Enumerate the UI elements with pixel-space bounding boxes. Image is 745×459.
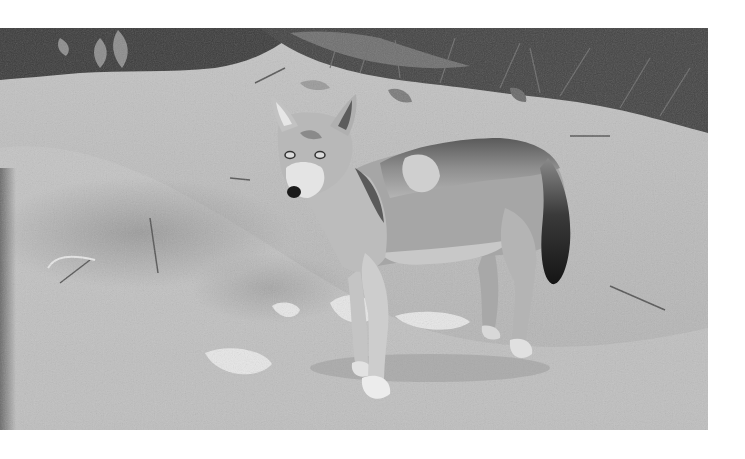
- wolf-eye-right: [315, 152, 325, 159]
- wolf-photograph: [0, 28, 708, 430]
- wolf-nose: [287, 186, 301, 198]
- wolf-eye-left: [285, 152, 295, 159]
- photo-canvas: [0, 28, 708, 430]
- wolf-shadow: [310, 354, 550, 382]
